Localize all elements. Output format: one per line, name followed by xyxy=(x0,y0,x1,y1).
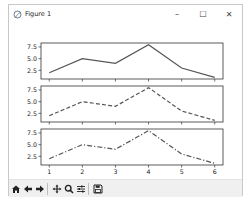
svg-text:5: 5 xyxy=(180,168,184,175)
home-button[interactable] xyxy=(10,182,21,195)
svg-text:4: 4 xyxy=(147,168,151,175)
subplots-chart: 2.55.07.52.55.07.52.55.07.5123456 xyxy=(9,23,242,178)
svg-text:7.5: 7.5 xyxy=(27,43,37,50)
svg-text:7.5: 7.5 xyxy=(27,129,37,136)
svg-text:2: 2 xyxy=(80,168,84,175)
forward-button[interactable] xyxy=(34,182,45,195)
svg-text:2.5: 2.5 xyxy=(27,153,37,160)
home-icon xyxy=(11,184,21,194)
pan-button[interactable] xyxy=(51,182,62,195)
window-title: Figure 1 xyxy=(25,10,51,18)
subplot-1: 2.55.07.5 xyxy=(27,43,223,82)
back-button[interactable] xyxy=(22,182,33,195)
magnifier-icon xyxy=(64,184,74,194)
navigation-toolbar xyxy=(9,179,242,197)
subplot-3: 2.55.07.5123456 xyxy=(27,129,223,175)
figure-canvas[interactable]: 2.55.07.52.55.07.52.55.07.5123456 xyxy=(9,23,242,178)
maximize-button[interactable]: ☐ xyxy=(190,5,216,23)
toolbar-separator xyxy=(47,183,48,195)
svg-text:7.5: 7.5 xyxy=(27,86,37,93)
svg-text:1: 1 xyxy=(47,168,51,175)
subplots-button[interactable] xyxy=(75,182,86,195)
arrow-left-icon xyxy=(23,184,33,194)
svg-text:5.0: 5.0 xyxy=(27,98,37,105)
svg-text:3: 3 xyxy=(113,168,117,175)
svg-text:5.0: 5.0 xyxy=(27,55,37,62)
svg-text:6: 6 xyxy=(213,168,217,175)
subplot-2: 2.55.07.5 xyxy=(27,86,223,125)
toolbar-separator xyxy=(88,183,89,195)
zoom-button[interactable] xyxy=(63,182,74,195)
minimize-button[interactable]: – xyxy=(164,5,190,23)
svg-text:2.5: 2.5 xyxy=(27,110,37,117)
title-bar: Figure 1 – ☐ ✕ xyxy=(9,5,242,23)
close-button[interactable]: ✕ xyxy=(216,5,242,23)
matplotlib-icon xyxy=(13,10,22,19)
sliders-icon xyxy=(76,184,86,194)
save-button[interactable] xyxy=(92,182,103,195)
svg-text:5.0: 5.0 xyxy=(27,141,37,148)
move-icon xyxy=(52,184,62,194)
figure-window: Figure 1 – ☐ ✕ 2.55.07.52.55.07.52.55.07… xyxy=(8,4,243,196)
floppy-icon xyxy=(93,184,103,194)
arrow-right-icon xyxy=(35,184,45,194)
svg-text:2.5: 2.5 xyxy=(27,67,37,74)
